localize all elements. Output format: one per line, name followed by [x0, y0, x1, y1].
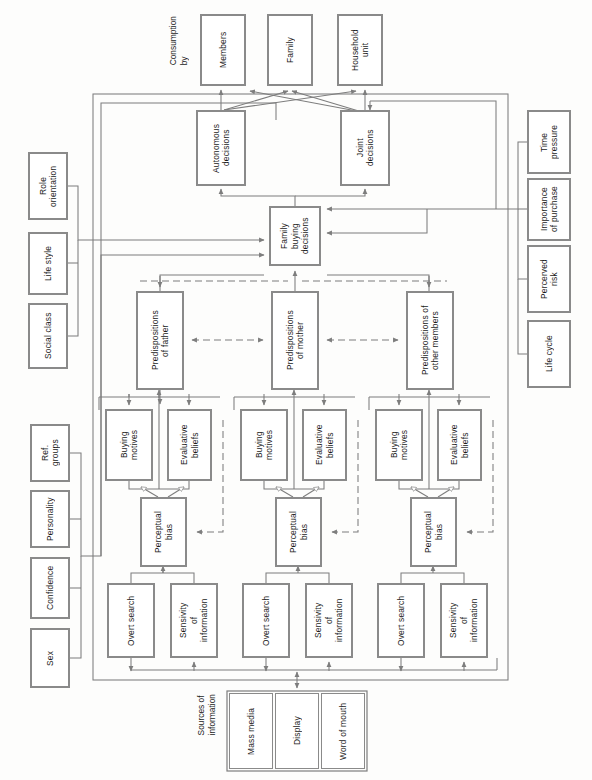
node-label: Percerved risk — [529, 247, 569, 311]
node-label: Role orientation — [30, 154, 66, 218]
node-label: Social class — [30, 305, 66, 367]
node-label: Overt search — [244, 585, 288, 656]
node-label: Sensivity of information — [442, 585, 486, 656]
node-joint-decisions[interactable]: Joint decisions — [340, 110, 390, 186]
source-cell-label: Word of mouth — [322, 694, 364, 768]
node-buying-motives-mother[interactable]: Buying motives — [240, 409, 288, 481]
node-ref-groups[interactable]: Ref. groups — [30, 424, 70, 482]
node-label: Evaluative beliefs — [169, 411, 210, 479]
consumption-by-label: Consumption by — [168, 16, 189, 65]
node-label: Perceptual bias — [277, 499, 320, 565]
node-confidence[interactable]: Confidence — [30, 557, 70, 619]
node-perceptual-bias-mother[interactable]: Perceptual bias — [275, 497, 322, 567]
source-cell-display[interactable]: Display — [275, 693, 319, 769]
node-label: Family — [269, 16, 311, 84]
node-label: Life style — [30, 234, 66, 293]
node-label: Perceptual bias — [412, 499, 455, 565]
node-buying-motives-father[interactable]: Buying motives — [105, 409, 153, 481]
source-cell-label: Mass media — [230, 694, 272, 768]
node-evaluative-beliefs-father[interactable]: Evaluative beliefs — [167, 409, 212, 481]
node-predispositions-mother[interactable]: Predispositions of mother — [271, 291, 319, 390]
node-overt-search-other[interactable]: Overt search — [377, 583, 425, 658]
node-label: Predispositions of other members — [408, 293, 452, 388]
diagram-canvas: MembersFamilyHousehold unitAutonomous de… — [0, 0, 592, 780]
node-label: Personality — [32, 492, 68, 546]
source-cell-label: Display — [276, 694, 318, 768]
node-label: Autonomous decisions — [198, 112, 244, 184]
node-members[interactable]: Members — [200, 14, 246, 86]
source-cell-mass-media[interactable]: Mass media — [229, 693, 273, 769]
node-perceived-risk[interactable]: Percerved risk — [527, 245, 571, 313]
node-personality[interactable]: Personality — [30, 490, 70, 548]
node-buying-motives-other[interactable]: Buying motives — [375, 409, 423, 481]
node-autonomous-decisions[interactable]: Autonomous decisions — [196, 110, 246, 186]
node-perceptual-bias-father[interactable]: Perceptual bias — [140, 497, 187, 567]
node-label: Sex — [32, 630, 68, 686]
node-evaluative-beliefs-mother[interactable]: Evaluative beliefs — [302, 409, 347, 481]
node-life-style[interactable]: Life style — [28, 232, 68, 295]
node-label: Buying motives — [242, 411, 286, 479]
node-importance-of-purchase[interactable]: Importance of purchase — [527, 178, 571, 241]
node-label: Life cycle — [529, 322, 569, 386]
node-label: Buying motives — [377, 411, 421, 479]
node-label: Household unit — [339, 16, 381, 84]
node-label: Evaluative beliefs — [439, 411, 480, 479]
node-role-orientation[interactable]: Role orientation — [28, 152, 68, 220]
node-social-class[interactable]: Social class — [28, 303, 68, 369]
node-perceptual-bias-other[interactable]: Perceptual bias — [410, 497, 457, 567]
node-sensivity-information-father[interactable]: Sensivity of information — [170, 583, 218, 658]
node-label: Overt search — [379, 585, 423, 656]
node-label: Time pressure — [529, 112, 569, 172]
node-label: Predispositions of mother — [273, 293, 317, 388]
node-label: Perceptual bias — [142, 499, 185, 565]
node-predispositions-other-members[interactable]: Predispositions of other members — [406, 291, 454, 390]
node-label: Overt search — [109, 585, 153, 656]
node-predispositions-father[interactable]: Predispositions of father — [136, 291, 184, 390]
node-life-cycle[interactable]: Life cycle — [527, 320, 571, 388]
node-sensivity-information-other[interactable]: Sensivity of information — [440, 583, 488, 658]
node-label: Confidence — [32, 559, 68, 617]
node-time-pressure[interactable]: Time pressure — [527, 110, 571, 174]
sources-of-information-label: Sources of information — [196, 694, 217, 735]
node-evaluative-beliefs-other[interactable]: Evaluative beliefs — [437, 409, 482, 481]
node-household-unit[interactable]: Household unit — [337, 14, 383, 86]
node-label: Buying motives — [107, 411, 151, 479]
node-overt-search-father[interactable]: Overt search — [107, 583, 155, 658]
node-label: Sensivity of information — [307, 585, 351, 656]
diagram-connector-layer — [0, 0, 592, 780]
node-label: Members — [202, 16, 244, 84]
node-label: Predispositions of father — [138, 293, 182, 388]
node-label: Sensivity of information — [172, 585, 216, 656]
node-family-buying-decisions[interactable]: Family buying decisions — [269, 206, 321, 266]
node-label: Importance of purchase — [529, 180, 569, 239]
node-label: Joint decisions — [342, 112, 388, 184]
node-label: Family buying decisions — [271, 208, 319, 264]
source-cell-word-of-mouth[interactable]: Word of mouth — [321, 693, 365, 769]
node-overt-search-mother[interactable]: Overt search — [242, 583, 290, 658]
node-label: Evaluative beliefs — [304, 411, 345, 479]
node-family[interactable]: Family — [267, 14, 313, 86]
node-sex[interactable]: Sex — [30, 628, 70, 688]
node-label: Ref. groups — [32, 426, 68, 480]
node-sensivity-information-mother[interactable]: Sensivity of information — [305, 583, 353, 658]
